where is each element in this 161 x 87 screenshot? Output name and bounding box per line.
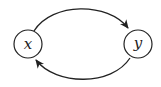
edge-x-to-y xyxy=(34,9,128,31)
node-x: x xyxy=(14,30,42,58)
node-y-label: y xyxy=(133,34,143,52)
edge-y-to-x xyxy=(36,58,130,79)
graph-diagram: x y xyxy=(0,0,161,87)
node-x-label: x xyxy=(24,35,33,53)
node-y: y xyxy=(124,30,152,58)
graph-canvas: x y xyxy=(0,0,161,87)
